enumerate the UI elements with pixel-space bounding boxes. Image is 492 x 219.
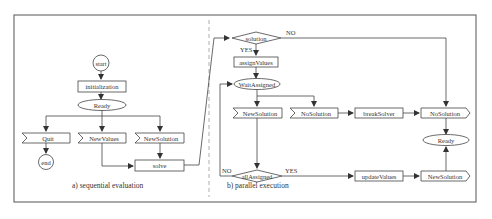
panel-b-parallel: solution NO YES assignValues WaitAssigne…	[220, 29, 470, 190]
new-values-label: NewValues	[89, 135, 119, 142]
all-assigned-label: allAssigned	[242, 173, 273, 180]
solve-label: solve	[153, 162, 167, 169]
new-solution-input-label: NewSolution	[243, 110, 278, 117]
quit-label: Quit	[42, 135, 54, 142]
solve-to-solution-edge	[184, 38, 229, 165]
panel-a-sequential: start initialization Ready Quit NewValue…	[22, 55, 184, 190]
ready-label: Ready	[94, 102, 111, 109]
update-values-label: updateValues	[362, 173, 397, 180]
initialization-label: initialization	[86, 83, 120, 90]
no-solution-input-label: NoSolution	[301, 110, 332, 117]
no-solution-output-label: NoSolution	[430, 110, 461, 117]
wait-assigned-label: WaitAssigned	[239, 81, 276, 88]
end-label: end	[41, 159, 51, 166]
caption-b: b) parallel execution	[227, 181, 289, 190]
all-assigned-no-label: NO	[222, 167, 232, 174]
solution-no-label: NO	[286, 29, 296, 36]
solution-yes-label: YES	[240, 46, 253, 53]
assign-values-label: assignValues	[239, 59, 273, 66]
break-solver-label: breakSolver	[363, 110, 395, 117]
new-solution-output-label: NewSolution	[428, 173, 463, 180]
flowchart-figure: start initialization Ready Quit NewValue…	[0, 0, 492, 219]
caption-a: a) sequential evaluation	[72, 181, 143, 190]
new-solution-label: NewSolution	[144, 135, 179, 142]
solution-label: solution	[246, 35, 268, 42]
start-label: start	[95, 60, 106, 67]
all-assigned-yes-label: YES	[285, 167, 298, 174]
ready-output-label: Ready	[438, 137, 455, 144]
